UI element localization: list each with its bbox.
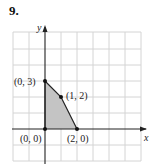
feasible-region-graph: y x (0, 3) (1, 2) (0, 0) (2, 0) bbox=[0, 0, 157, 166]
point-label: (0, 3) bbox=[14, 76, 36, 88]
point-label: (2, 0) bbox=[67, 133, 89, 145]
x-axis-arrow-icon bbox=[140, 127, 147, 132]
y-axis-arrow-icon bbox=[43, 25, 48, 32]
point-label: (1, 2) bbox=[66, 90, 88, 102]
point-label: (0, 0) bbox=[20, 133, 42, 145]
x-axis-label: x bbox=[143, 132, 149, 143]
y-axis-label: y bbox=[36, 22, 42, 33]
